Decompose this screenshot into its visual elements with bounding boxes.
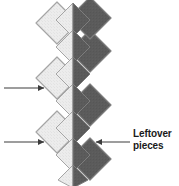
figure-canvas: Leftover pieces: [0, 0, 179, 186]
quilt-diagram: [0, 0, 179, 186]
leftover-label-line1: Leftover: [133, 128, 172, 139]
leftover-label-line2: pieces: [133, 140, 179, 152]
leftover-pieces-label: Leftover pieces: [133, 128, 179, 152]
quilt-lattice: [0, 0, 179, 186]
